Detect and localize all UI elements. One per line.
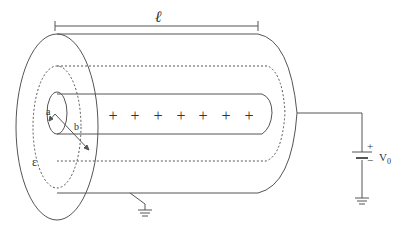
plus-charge: + [198, 107, 207, 124]
plus-charge: + [244, 107, 253, 124]
permittivity-label: ε [32, 155, 37, 169]
battery-minus-label: − [367, 154, 373, 166]
voltage-label: V0 [379, 151, 391, 166]
plus-charge: + [130, 107, 139, 124]
length-label: ℓ [155, 8, 162, 25]
capacitor-diagram: + + + + + + + ℓ a b ε + − V0 [0, 0, 403, 229]
outer-conductor [16, 34, 297, 220]
plus-charge: + [176, 107, 185, 124]
plus-charge: + [153, 107, 162, 124]
radius-b-arrow [55, 114, 89, 150]
radius-a-label: a [46, 106, 51, 117]
battery-plus-label: + [367, 140, 373, 152]
radius-b-label: b [74, 121, 79, 132]
plus-charge: + [108, 107, 117, 124]
charge-row: + + + + + + + [108, 107, 253, 124]
plus-charge: + [221, 107, 230, 124]
circuit-wire [297, 113, 362, 198]
cylinder-ground [130, 193, 152, 216]
gaussian-surface [33, 66, 285, 188]
battery-ground-icon [355, 198, 369, 204]
